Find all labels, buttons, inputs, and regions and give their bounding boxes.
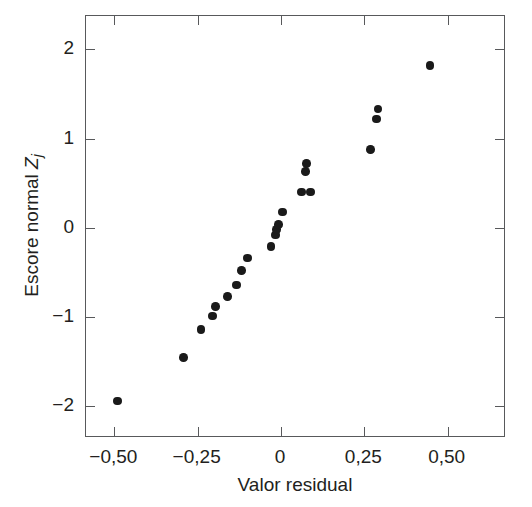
data-point	[301, 167, 310, 176]
x-tick-label: −0,50	[89, 446, 137, 468]
data-point	[208, 312, 217, 321]
x-tick-mark-top	[114, 16, 115, 25]
y-tick-label: −1	[52, 305, 74, 327]
normal-probability-plot-figure: −2−1012 −0,50−0,2500,250,50 Valor residu…	[0, 0, 532, 507]
x-tick-mark	[198, 427, 199, 436]
data-point	[197, 325, 206, 334]
data-point	[267, 242, 276, 251]
data-point	[374, 105, 383, 114]
data-point	[366, 145, 375, 154]
data-point	[302, 159, 311, 168]
y-axis-title-subscript: j	[29, 154, 45, 157]
data-point	[306, 188, 315, 197]
y-tick-label: 1	[63, 127, 74, 149]
data-point	[211, 302, 220, 311]
data-point	[426, 61, 435, 70]
data-point	[113, 397, 122, 406]
data-point	[297, 188, 306, 197]
y-axis-title-variable: Z	[21, 157, 42, 169]
y-tick-mark-right	[495, 49, 504, 50]
data-point	[278, 208, 287, 217]
y-tick-mark	[86, 228, 95, 229]
x-tick-label: 0,25	[345, 446, 382, 468]
data-point	[237, 266, 246, 275]
x-tick-mark	[281, 427, 282, 436]
x-tick-mark-top	[198, 16, 199, 25]
x-axis-title: Valor residual	[85, 474, 505, 496]
y-tick-mark	[86, 406, 95, 407]
data-point	[232, 281, 241, 290]
data-point	[179, 353, 188, 362]
data-point	[274, 220, 283, 229]
x-tick-mark	[448, 427, 449, 436]
x-tick-mark	[114, 427, 115, 436]
x-tick-label: 0,50	[428, 446, 465, 468]
y-tick-mark	[86, 139, 95, 140]
y-tick-mark-right	[495, 317, 504, 318]
y-tick-mark-right	[495, 406, 504, 407]
x-tick-mark-top	[448, 16, 449, 25]
x-tick-label: −0,25	[173, 446, 221, 468]
y-tick-label: 0	[63, 216, 74, 238]
y-tick-mark-right	[495, 228, 504, 229]
x-tick-mark	[364, 427, 365, 436]
y-tick-mark	[86, 317, 95, 318]
scatter-points-layer	[86, 16, 504, 436]
x-axis-tick-labels: −0,50−0,2500,250,50	[85, 446, 505, 472]
y-tick-label: −2	[52, 394, 74, 416]
x-tick-label: 0	[275, 446, 286, 468]
y-tick-mark	[86, 49, 95, 50]
plot-frame	[85, 15, 505, 437]
data-point	[243, 254, 252, 263]
data-point	[223, 292, 232, 301]
y-tick-mark-right	[495, 139, 504, 140]
y-axis-title-text: Escore normal	[21, 169, 42, 297]
x-tick-mark-top	[364, 16, 365, 25]
y-axis-title: Escore normal Zj	[21, 14, 46, 436]
y-tick-label: 2	[63, 37, 74, 59]
data-point	[372, 115, 381, 124]
x-tick-mark-top	[281, 16, 282, 25]
